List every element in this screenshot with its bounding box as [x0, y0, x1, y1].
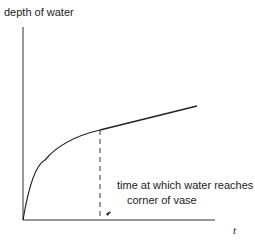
annotation-line-1: time at which water reaches	[117, 179, 253, 192]
x-axis-label: t	[233, 224, 236, 237]
depth-curve	[23, 130, 100, 220]
linear-segment	[100, 106, 197, 130]
annotation-line-2: corner of vase	[127, 194, 197, 207]
